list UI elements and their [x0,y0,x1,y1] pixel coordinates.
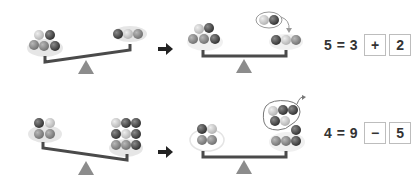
ball [45,30,55,40]
triangle-fulcrum-icon [78,60,94,74]
ball [121,129,131,139]
triangle-fulcrum-icon [78,161,94,175]
arrowhead-icon [286,28,292,33]
triangle-fulcrum-icon [236,59,252,73]
ball [269,15,279,25]
problem-row-2: 4 = 9 − 5 [0,94,419,188]
ball [259,15,269,25]
ball [199,34,209,44]
ball [281,35,291,45]
equation-1: 5 = 3 + 2 [324,34,411,56]
ball [111,118,121,128]
beam [203,151,286,157]
ball [280,116,290,126]
scale-after-1 [187,12,303,73]
ball [207,124,217,134]
ball [197,135,207,145]
ball [210,34,220,44]
operator-box[interactable]: − [364,122,386,144]
right-arrow-icon [158,43,173,55]
ball [34,118,44,128]
scale-before-2 [28,118,143,175]
ball [194,24,204,34]
ball [207,135,217,145]
scale-after-2 [190,95,306,174]
ball [50,41,60,51]
ball [278,105,288,115]
operator-box[interactable]: + [364,34,386,56]
triangle-fulcrum-icon [236,160,252,174]
ball [291,136,301,146]
ball [123,29,133,39]
scale-before-1 [27,26,147,74]
ball [39,41,49,51]
equation-2: 4 = 9 − 5 [324,122,411,144]
equation-lhs: 4 = 9 [324,125,358,141]
ball [271,35,281,45]
answer-box[interactable]: 2 [389,34,411,56]
ball [131,118,141,128]
problem-row-1: 5 = 3 + 2 [0,0,419,94]
arrowhead-icon [302,95,306,100]
ball [121,140,131,150]
ball [113,29,123,39]
ball [188,34,198,44]
equation-lhs: 5 = 3 [324,37,358,53]
ball [34,30,44,40]
ball [45,118,55,128]
ball [133,29,143,39]
right-arrow-icon [158,146,173,158]
ball [197,124,207,134]
ball [131,129,141,139]
ball [268,106,278,116]
ball [121,118,131,128]
ball [111,129,121,139]
ball [291,35,301,45]
ball [204,23,214,33]
ball [288,105,298,115]
answer-box[interactable]: 5 [389,122,411,144]
ball [29,40,39,50]
ball [281,136,291,146]
beam [203,50,286,56]
ball [131,140,141,150]
ball [270,116,280,126]
ball [291,125,301,135]
ball [271,136,281,146]
ball [34,129,44,139]
ball [45,129,55,139]
ball [111,140,121,150]
